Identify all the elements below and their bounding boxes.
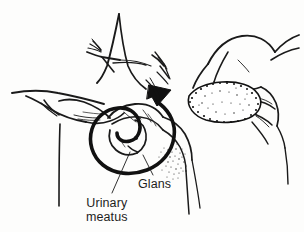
medical-line-drawing [0, 0, 304, 232]
illustration-page: Glans Urinarymeatus [0, 0, 304, 232]
label-urinary-meatus-line1: Urinary [86, 196, 127, 210]
gauze-swab [188, 82, 260, 123]
label-urinary-meatus-line2: meatus [86, 210, 128, 224]
label-glans: Glans [138, 177, 171, 191]
label-urinary-meatus: Urinarymeatus [86, 196, 128, 224]
